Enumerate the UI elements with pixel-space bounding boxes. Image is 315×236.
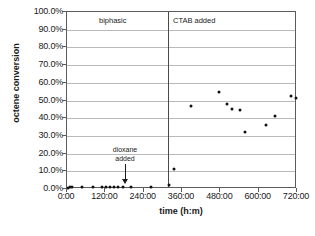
data-point [116,186,119,189]
x-tick-label-360: 360:00 [168,191,194,201]
data-point [189,104,192,107]
x-tick-label-600: 600:00 [245,191,271,201]
data-point [168,183,171,186]
x-axis-tick-labels: 0:00 120:00 240:00 360:00 480:00 600:00 … [66,191,296,205]
data-point [70,185,73,188]
data-point [101,186,104,189]
x-tick-label-720: 720:00 [283,191,309,201]
dioxane-annotation-line2: added [99,155,151,163]
y-tick-label-20: 20.0% [3,149,63,158]
gridline-80 [67,47,295,48]
data-point [80,186,83,189]
x-tick-label-240: 240:00 [130,191,156,201]
data-point [129,186,132,189]
biphasic-region-label: biphasic [99,16,127,25]
dioxane-arrow-head [122,179,128,184]
data-point [238,108,241,111]
data-point [108,186,111,189]
gridline-30 [67,136,295,137]
gridline-10 [67,171,295,172]
x-tick-label-120: 120:00 [91,191,117,201]
x-tick-label-0: 0:00 [58,191,75,201]
data-point [112,186,115,189]
x-tick-label-480: 480:00 [206,191,232,201]
data-point [92,186,95,189]
data-point [289,94,292,97]
data-point [265,123,268,126]
y-tick-label-100: 100.0% [3,7,63,16]
gridline-50 [67,101,295,102]
data-point [149,186,152,189]
y-tick-label-10: 10.0% [3,166,63,175]
data-point [173,167,176,170]
dioxane-annotation-line1: dioxane [99,146,151,154]
data-point [294,96,297,99]
gridline-40 [67,118,295,119]
y-tick-label-0: 0.0% [3,184,63,193]
gridline-90 [67,30,295,31]
data-point [225,103,228,106]
figure-container: 100.0% 90.0% 80.0% 70.0% 60.0% 50.0% 40.… [0,0,315,236]
data-point [122,186,125,189]
gridline-70 [67,65,295,66]
y-axis-title: octene conversion [11,23,21,143]
y-axis-tick-labels: 100.0% 90.0% 80.0% 70.0% 60.0% 50.0% 40.… [0,11,63,188]
ctab-region-label: CTAB added [173,16,215,25]
x-axis-title: time (h:m) [66,206,296,216]
gridline-60 [67,83,295,84]
plot-area: biphasic CTAB added dioxane added [66,11,296,188]
data-point [274,115,277,118]
data-point [243,130,246,133]
data-point [230,107,233,110]
data-point [218,91,221,94]
dioxane-arrow-shaft [125,164,126,180]
phase-divider-line [168,12,169,187]
